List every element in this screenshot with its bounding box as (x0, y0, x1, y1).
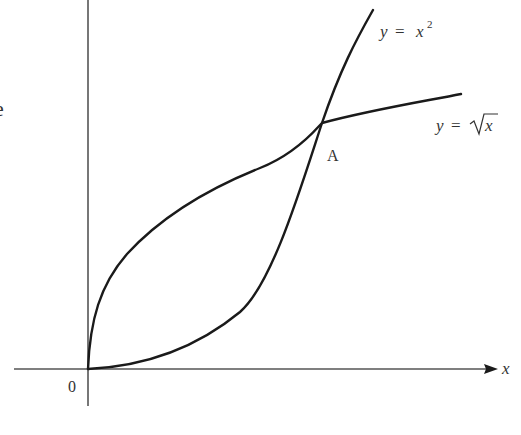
svg-text:y: y (434, 116, 444, 135)
svg-text:=: = (451, 116, 461, 135)
curve-y-equals-x-squared (88, 10, 373, 369)
origin-label: 0 (68, 378, 76, 395)
label-y-equals-x-squared: y = x 2 (378, 18, 433, 41)
svg-text:x: x (484, 116, 493, 135)
curves-diagram: e 0 x A y = x 2 y = x (0, 0, 521, 435)
clipped-text-fragment: e (0, 96, 4, 121)
point-a-label: A (327, 147, 339, 164)
x-axis-arrowhead-icon (484, 364, 498, 374)
curve-y-equals-sqrt-x (88, 94, 461, 369)
label-y-equals-sqrt-x: y = x (434, 114, 498, 135)
radical-sign-icon (470, 114, 498, 134)
svg-text:2: 2 (427, 18, 433, 30)
svg-text:=: = (395, 22, 405, 41)
svg-text:y: y (378, 22, 388, 41)
x-axis-label: x (501, 359, 510, 378)
svg-text:x: x (415, 22, 424, 41)
